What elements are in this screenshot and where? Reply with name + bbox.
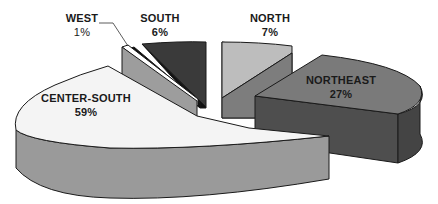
label-northeast-name: NORTHEAST xyxy=(303,73,379,87)
label-north-pct: 7% xyxy=(246,25,294,39)
label-south-name: SOUTH xyxy=(136,11,184,25)
label-northeast: NORTHEAST 27% xyxy=(303,73,379,101)
label-west-pct: 1% xyxy=(62,25,102,39)
label-north: NORTH 7% xyxy=(246,11,294,39)
west-leader-line xyxy=(99,23,128,46)
label-west: WEST 1% xyxy=(62,11,102,39)
label-south: SOUTH 6% xyxy=(136,11,184,39)
label-center-south: CENTER-SOUTH 59% xyxy=(38,91,134,119)
label-center-south-name: CENTER-SOUTH xyxy=(38,91,134,105)
label-center-south-pct: 59% xyxy=(38,105,134,119)
label-south-pct: 6% xyxy=(136,25,184,39)
label-northeast-pct: 27% xyxy=(303,87,379,101)
label-west-name: WEST xyxy=(62,11,102,25)
label-north-name: NORTH xyxy=(246,11,294,25)
